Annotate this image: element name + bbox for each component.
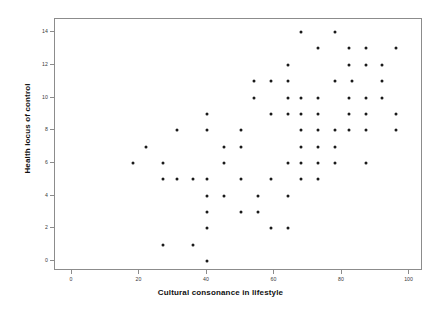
data-point [317, 112, 320, 115]
data-point [381, 80, 384, 83]
data-point [205, 227, 208, 230]
data-point [334, 145, 337, 148]
data-point [364, 129, 367, 132]
y-tick-mark [50, 64, 54, 65]
data-point [270, 80, 273, 83]
plot-data-area [55, 19, 421, 269]
data-point [300, 31, 303, 34]
data-point [300, 129, 303, 132]
data-point [334, 162, 337, 165]
x-tick-label: 20 [136, 276, 142, 282]
data-point [347, 129, 350, 132]
data-point [270, 112, 273, 115]
data-point [253, 80, 256, 83]
data-point [256, 194, 259, 197]
data-point [300, 145, 303, 148]
data-point [175, 129, 178, 132]
data-point [300, 96, 303, 99]
y-tick-mark [50, 31, 54, 32]
data-point [334, 31, 337, 34]
data-point [270, 227, 273, 230]
data-point [394, 112, 397, 115]
data-point [286, 194, 289, 197]
data-point [239, 211, 242, 214]
data-point [381, 96, 384, 99]
data-point [394, 129, 397, 132]
data-point [364, 96, 367, 99]
data-point [286, 80, 289, 83]
y-tick-label: 0 [45, 257, 48, 263]
y-tick-label: 10 [42, 94, 48, 100]
data-point [364, 162, 367, 165]
data-point [222, 145, 225, 148]
data-point [253, 96, 256, 99]
y-tick-mark [50, 97, 54, 98]
y-tick-label: 2 [45, 224, 48, 230]
data-point [364, 112, 367, 115]
data-point [300, 162, 303, 165]
data-point [381, 63, 384, 66]
data-point [347, 96, 350, 99]
data-point [286, 227, 289, 230]
x-tick-mark [341, 270, 342, 274]
data-point [286, 63, 289, 66]
y-tick-mark [50, 162, 54, 163]
data-point [317, 129, 320, 132]
y-axis-title: Health locus of control [23, 19, 32, 239]
data-point [317, 96, 320, 99]
data-point [286, 112, 289, 115]
data-point [239, 145, 242, 148]
data-point [192, 178, 195, 181]
data-point [347, 63, 350, 66]
data-point [364, 63, 367, 66]
x-tick-mark [138, 270, 139, 274]
data-point [222, 162, 225, 165]
data-point [347, 47, 350, 50]
data-point [131, 162, 134, 165]
y-tick-label: 8 [45, 126, 48, 132]
data-point [300, 112, 303, 115]
data-point [317, 162, 320, 165]
y-tick-mark [50, 227, 54, 228]
data-point [300, 178, 303, 181]
y-tick-label: 4 [45, 192, 48, 198]
data-point [205, 211, 208, 214]
data-point [317, 47, 320, 50]
x-tick-label: 0 [69, 276, 72, 282]
data-point [394, 47, 397, 50]
data-point [317, 145, 320, 148]
y-tick-label: 14 [42, 28, 48, 34]
data-point [347, 112, 350, 115]
y-tick-mark [50, 195, 54, 196]
data-point [334, 80, 337, 83]
x-tick-mark [206, 270, 207, 274]
data-point [317, 178, 320, 181]
x-tick-label: 40 [203, 276, 209, 282]
y-tick-label: 6 [45, 159, 48, 165]
data-point [351, 80, 354, 83]
data-point [205, 178, 208, 181]
data-point [239, 129, 242, 132]
data-point [205, 129, 208, 132]
y-tick-mark [50, 260, 54, 261]
x-tick-mark [273, 270, 274, 274]
x-tick-mark [408, 270, 409, 274]
plot-frame [54, 18, 422, 270]
data-point [192, 243, 195, 246]
data-point [286, 96, 289, 99]
data-point [162, 162, 165, 165]
data-point [239, 178, 242, 181]
y-tick-mark [50, 129, 54, 130]
data-point [270, 178, 273, 181]
x-tick-label: 60 [271, 276, 277, 282]
scatter-plot-figure: 02468101214 020406080100 Health locus of… [0, 0, 441, 310]
data-point [364, 47, 367, 50]
data-point [205, 194, 208, 197]
data-point [162, 243, 165, 246]
data-point [222, 194, 225, 197]
data-point [205, 260, 208, 263]
data-point [256, 211, 259, 214]
data-point [286, 162, 289, 165]
data-point [175, 178, 178, 181]
data-point [162, 178, 165, 181]
